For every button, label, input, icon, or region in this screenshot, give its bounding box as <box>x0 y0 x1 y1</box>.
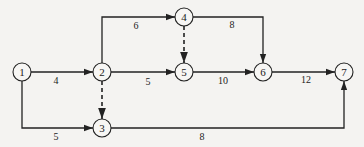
svg-text:3: 3 <box>99 122 105 134</box>
edge-label-1-3: 5 <box>54 131 59 142</box>
svg-text:1: 1 <box>19 66 25 78</box>
node-2: 2 <box>93 63 111 81</box>
node-7: 7 <box>335 63 353 81</box>
svg-text:4: 4 <box>181 11 187 23</box>
svg-text:2: 2 <box>99 66 105 78</box>
node-6: 6 <box>254 63 272 81</box>
edge-3-7 <box>111 81 344 128</box>
edge-label-5-6: 10 <box>218 75 228 86</box>
edge-label-6-7: 12 <box>301 74 311 85</box>
node-5: 5 <box>175 63 193 81</box>
edge-4-6 <box>193 17 263 63</box>
edge-label-1-2: 4 <box>54 75 59 86</box>
node-4: 4 <box>175 8 193 26</box>
edge-2-4 <box>102 17 175 63</box>
node-1: 1 <box>13 63 31 81</box>
node-3: 3 <box>93 119 111 137</box>
svg-text:7: 7 <box>341 66 347 78</box>
edge-label-3-7: 8 <box>200 131 205 142</box>
edge-1-3 <box>22 81 93 128</box>
svg-text:6: 6 <box>260 66 266 78</box>
svg-text:5: 5 <box>181 66 187 78</box>
network-diagram: 4 5 6 5 8 10 12 8 1 2 3 4 5 6 <box>0 0 364 147</box>
edge-label-4-6: 8 <box>230 19 235 30</box>
edge-label-2-5: 5 <box>146 76 151 87</box>
edge-label-2-4: 6 <box>134 20 139 31</box>
